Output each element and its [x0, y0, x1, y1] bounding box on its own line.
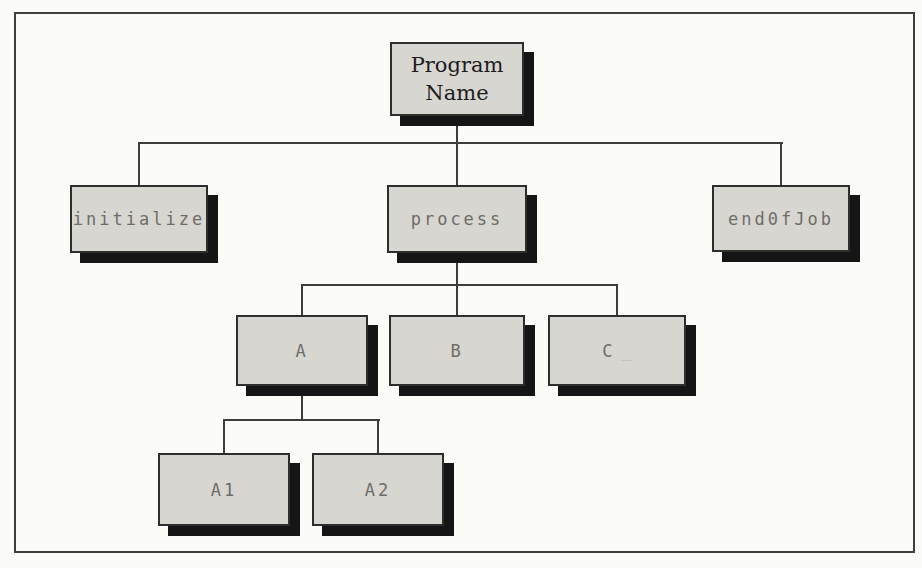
- connector-line: [456, 142, 458, 185]
- node-label: A1: [211, 480, 237, 500]
- connector-line: [616, 284, 618, 315]
- node-program-name: Program Name: [390, 42, 524, 116]
- node-c: C_: [548, 315, 686, 386]
- node-label: Program Name: [411, 51, 504, 108]
- node-initialize: initialize: [70, 185, 208, 253]
- connector-line: [301, 386, 303, 420]
- node-label: C: [602, 341, 615, 361]
- faint-underscore-mark: _: [622, 341, 632, 361]
- connector-line: [138, 142, 140, 185]
- connector-line: [780, 142, 782, 185]
- connector-line: [301, 284, 303, 315]
- connector-line: [223, 419, 225, 453]
- node-a2: A2: [312, 453, 444, 526]
- node-label: initialize: [73, 209, 205, 229]
- node-a: A: [236, 315, 368, 386]
- structure-chart-figure: Program Name initialize process end0fJob…: [0, 0, 922, 568]
- node-label: A: [295, 341, 308, 361]
- connector-line: [139, 142, 783, 144]
- node-label: end0fJob: [728, 209, 834, 229]
- node-a1: A1: [158, 453, 290, 526]
- node-b: B: [389, 315, 525, 386]
- node-label: B: [450, 341, 463, 361]
- node-process: process: [387, 185, 527, 253]
- connector-line: [377, 419, 379, 453]
- node-label: A2: [365, 480, 391, 500]
- connector-line: [302, 284, 618, 286]
- node-label: process: [411, 209, 504, 229]
- connector-line: [224, 419, 380, 421]
- connector-line: [456, 116, 458, 144]
- node-endofjob: end0fJob: [712, 185, 850, 252]
